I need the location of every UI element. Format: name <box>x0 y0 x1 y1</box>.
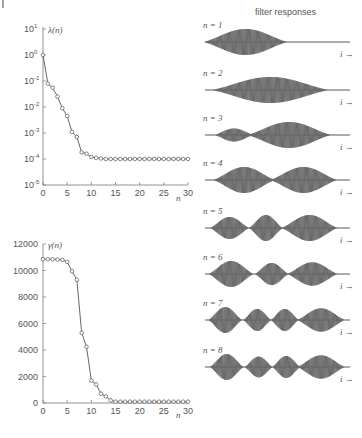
lambda-x-tick: 25 <box>159 188 169 198</box>
filter-label: n = 7 <box>203 298 223 308</box>
filter-response-6: n = 6i → <box>203 252 354 291</box>
lambda-data-point <box>61 106 65 110</box>
gamma-data-point <box>148 400 152 404</box>
lambda-data-point <box>109 157 113 161</box>
lambda-data-point <box>138 157 142 161</box>
lambda-data-point <box>41 53 45 57</box>
gamma-data-point <box>181 400 185 404</box>
time-axis-label: i → <box>340 49 354 59</box>
gamma-data-point <box>70 269 74 273</box>
lambda-data-point <box>162 157 166 161</box>
gamma-y-tick: 12000 <box>13 239 38 249</box>
lambda-data-point <box>75 135 79 139</box>
gamma-data-point <box>104 395 108 399</box>
lambda-y-tick: 10-1 <box>24 75 40 86</box>
gamma-x-tick: 20 <box>135 406 145 416</box>
gamma-y-tick: 2000 <box>18 372 38 382</box>
filter-label: n = 4 <box>203 158 223 168</box>
filter-response-5: n = 5i → <box>203 206 354 245</box>
gamma-plot: 020004000600080001000012000 051015202530… <box>13 239 193 420</box>
lambda-y-label: λ(n) <box>47 25 62 35</box>
lambda-data-point <box>123 157 127 161</box>
gamma-x-tick: 10 <box>86 406 96 416</box>
gamma-data-point <box>119 400 123 404</box>
time-axis-label: i → <box>340 235 354 245</box>
gamma-y-tick: 6000 <box>18 319 38 329</box>
figure-canvas: 10110010-110-210-310-410-5 051015202530 … <box>0 0 362 438</box>
gamma-y-tick: 0 <box>33 398 38 408</box>
gamma-data-point <box>41 257 45 261</box>
gamma-data-point <box>152 400 156 404</box>
lambda-data-point <box>143 157 147 161</box>
gamma-data-point <box>56 258 60 262</box>
time-axis-label: i → <box>340 187 354 197</box>
gamma-data-point <box>177 400 181 404</box>
filter-responses-panel: n = 1i →n = 2i →n = 3i →n = 4i →n = 5i →… <box>203 20 354 384</box>
filter-response-1: n = 1i → <box>203 20 354 59</box>
lambda-x-tick: 5 <box>65 188 70 198</box>
filter-response-8: n = 8i → <box>203 345 354 384</box>
filter-label: n = 5 <box>203 206 223 216</box>
gamma-data-point <box>186 400 190 404</box>
gamma-data-point <box>128 400 132 404</box>
gamma-data-point <box>109 399 113 403</box>
filter-label: n = 1 <box>203 20 223 30</box>
lambda-data-point <box>148 157 152 161</box>
gamma-data-point <box>172 400 176 404</box>
gamma-x-label: n <box>176 410 181 420</box>
filter-response-4: n = 4i → <box>203 158 354 197</box>
lambda-data-point <box>119 157 123 161</box>
filter-label: n = 3 <box>203 113 223 123</box>
gamma-data-point <box>94 383 98 387</box>
gamma-data-point <box>80 331 84 335</box>
filter-response-7: n = 7i → <box>203 298 354 337</box>
time-axis-label: i → <box>340 97 354 107</box>
lambda-data-point <box>46 82 50 86</box>
gamma-y-tick: 8000 <box>18 292 38 302</box>
lambda-x-tick: 30 <box>183 188 193 198</box>
gamma-data-point <box>61 258 65 262</box>
time-axis-label: i → <box>340 281 354 291</box>
filter-label: n = 8 <box>203 345 223 355</box>
lambda-data-point <box>133 157 137 161</box>
lambda-data-point <box>56 95 60 99</box>
lambda-y-tick: 10-4 <box>24 153 40 164</box>
gamma-data-point <box>90 379 94 383</box>
lambda-x-tick: 20 <box>135 188 145 198</box>
lambda-data-point <box>186 157 190 161</box>
time-axis-label: i → <box>340 327 354 337</box>
lambda-y-tick: 10-2 <box>24 101 40 112</box>
lambda-x-tick: 0 <box>40 188 45 198</box>
filter-response-3: n = 3i → <box>203 113 354 152</box>
lambda-data-point <box>51 86 55 90</box>
gamma-data-point <box>138 400 142 404</box>
gamma-data-point <box>65 260 69 264</box>
filter-response-2: n = 2i → <box>203 68 354 107</box>
gamma-x-tick: 30 <box>183 406 193 416</box>
gamma-data-point <box>75 278 79 282</box>
lambda-y-tick: 10-3 <box>24 127 40 138</box>
gamma-data-point <box>143 400 147 404</box>
lambda-x-tick: 10 <box>86 188 96 198</box>
gamma-data-point <box>167 400 171 404</box>
lambda-data-point <box>181 157 185 161</box>
lambda-data-point <box>90 155 94 159</box>
gamma-y-tick: 10000 <box>13 266 38 276</box>
lambda-x-label: n <box>176 193 181 203</box>
lambda-data-point <box>94 156 98 160</box>
time-axis-label: i → <box>340 142 354 152</box>
gamma-x-tick: 15 <box>110 406 120 416</box>
lambda-data-point <box>157 157 161 161</box>
lambda-data-point <box>80 151 84 155</box>
lambda-data-point <box>167 157 171 161</box>
gamma-data-point <box>99 392 103 396</box>
gamma-x-tick: 5 <box>65 406 70 416</box>
gamma-data-point <box>123 400 127 404</box>
lambda-data-point <box>114 157 118 161</box>
gamma-data-point <box>114 400 118 404</box>
time-axis-label: i → <box>340 374 354 384</box>
lambda-data-point <box>104 157 108 161</box>
lambda-data-point <box>128 157 132 161</box>
filter-label: n = 2 <box>203 68 223 78</box>
gamma-y-label: γ(n) <box>48 240 62 250</box>
